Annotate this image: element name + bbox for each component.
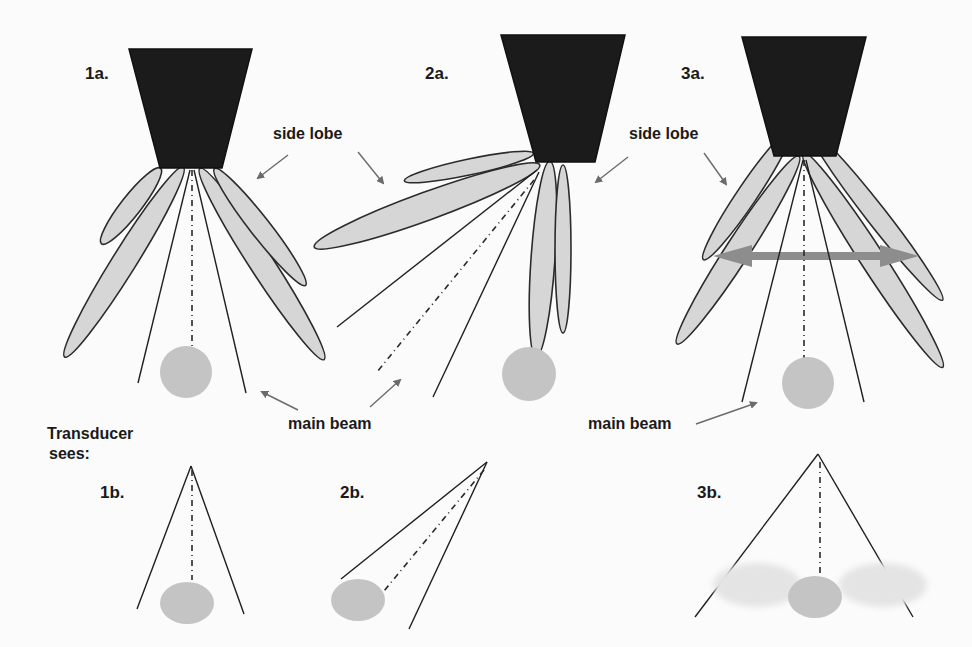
panel-label-1b: 1b. (100, 484, 125, 501)
sweep-double-arrow (713, 245, 919, 267)
target-object (160, 346, 212, 398)
side-lobe-right-long (190, 162, 334, 366)
panel-label-2a: 2a. (425, 65, 449, 82)
panel-3b (695, 454, 927, 618)
side-lobe-ghost-artifact-left (713, 563, 801, 607)
panel-label-3a: 3a. (681, 65, 705, 82)
panel-2a (309, 35, 628, 407)
side-lobe-upper-long (309, 152, 544, 260)
image-edge-lower (409, 462, 487, 629)
diagram-canvas: 1a. 2a. 3a. side lobe side lobe main bea… (0, 0, 972, 647)
main-beam-pointer (262, 392, 298, 410)
displayed-target (788, 576, 842, 618)
transducer (129, 49, 252, 168)
transducer (501, 35, 625, 162)
main-beam-pointer (696, 403, 756, 424)
side-lobe-left-long (54, 161, 193, 364)
target-object (782, 357, 834, 409)
transducer (742, 37, 866, 156)
transducer-sees-label: Transducer sees: (47, 424, 133, 464)
image-axis (384, 470, 484, 591)
target-object (502, 347, 556, 401)
panel-label-3b: 3b. (697, 484, 722, 501)
displayed-target (160, 582, 214, 624)
main-beam-pointer (370, 380, 400, 407)
transducer-sees-line2: sees: (47, 444, 133, 464)
panel-1a (54, 49, 334, 410)
main-beam-label-2: main beam (588, 416, 672, 432)
side-lobe-label-2: side lobe (629, 126, 698, 142)
panel-3a (667, 37, 953, 424)
panel-label-2b: 2b. (340, 484, 365, 501)
side-lobe-pointer (358, 152, 383, 183)
side-lobe-down-short (555, 165, 571, 333)
displayed-target (331, 579, 385, 621)
side-lobe-pointer (704, 153, 726, 184)
image-edge-upper (341, 462, 487, 579)
panel-label-1a: 1a. (85, 65, 109, 82)
transducer-sees-line1: Transducer (47, 424, 133, 444)
main-beam-label-1: main beam (288, 416, 372, 432)
side-lobe-ghost-artifact-right (839, 563, 927, 607)
panel-1b (137, 466, 244, 624)
side-lobe-pointer (596, 157, 628, 182)
diagram-graphics (0, 0, 972, 647)
side-lobe-pointer (258, 155, 288, 178)
side-lobe-label-1: side lobe (273, 126, 342, 142)
